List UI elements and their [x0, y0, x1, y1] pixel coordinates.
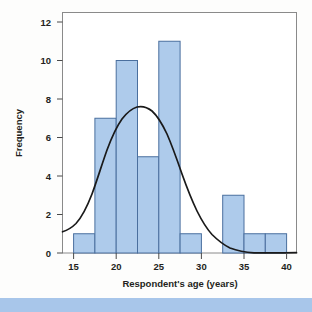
y-tick-label-6: 6 — [46, 132, 51, 143]
x-tick-label-25: 25 — [154, 261, 165, 272]
y-tick-label-0: 0 — [46, 248, 51, 259]
histogram-figure: 0 2 4 6 8 10 12 Frequency — [0, 0, 312, 312]
y-tick-label-4: 4 — [46, 171, 52, 182]
table-row[interactable] — [95, 118, 116, 253]
table-row[interactable] — [74, 234, 95, 253]
y-tick-label-2: 2 — [46, 209, 51, 220]
y-tick-label-10: 10 — [40, 55, 51, 66]
table-row[interactable] — [244, 234, 265, 253]
x-axis-ticks — [74, 253, 287, 259]
y-tick-label-12: 12 — [40, 17, 51, 28]
table-row[interactable] — [116, 61, 137, 254]
table-row[interactable] — [138, 157, 159, 253]
y-tick-label-8: 8 — [46, 94, 51, 105]
table-row[interactable] — [265, 234, 286, 253]
table-row[interactable] — [159, 41, 180, 253]
x-tick-label-15: 15 — [68, 261, 79, 272]
x-tick-label-40: 40 — [281, 261, 292, 272]
x-tick-label-20: 20 — [111, 261, 122, 272]
table-row[interactable] — [223, 195, 244, 253]
chart-canvas: 0 2 4 6 8 10 12 Frequency — [0, 0, 312, 312]
table-row[interactable] — [180, 234, 201, 253]
x-axis-title: Respondent's age (years) — [122, 278, 237, 289]
y-axis-ticks — [57, 22, 63, 253]
y-axis-title: Frequency — [13, 108, 24, 157]
bottom-banner — [0, 298, 312, 312]
x-tick-label-30: 30 — [196, 261, 207, 272]
x-tick-label-35: 35 — [239, 261, 250, 272]
